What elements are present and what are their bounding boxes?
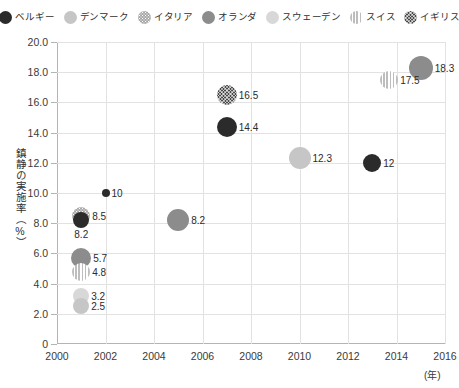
y-axis-tick-label: 4.0 bbox=[33, 278, 48, 290]
x-gridline bbox=[445, 42, 446, 344]
data-point-label: 18.3 bbox=[435, 62, 454, 73]
legend-item-denmark[interactable]: デンマーク bbox=[64, 11, 129, 24]
y-axis-tick bbox=[51, 314, 57, 315]
x-gridline bbox=[203, 42, 204, 344]
x-axis-tick-label: 2016 bbox=[433, 350, 456, 362]
x-axis-tick-label: 2014 bbox=[385, 350, 408, 362]
data-point-denmark[interactable] bbox=[73, 298, 89, 314]
y-axis-tick bbox=[51, 253, 57, 254]
y-axis-tick-label: 12.0 bbox=[28, 157, 48, 169]
y-axis-tick-label: 2.0 bbox=[33, 308, 48, 320]
legend-label-belgium: ベルギー bbox=[15, 12, 54, 22]
data-point-switzerland[interactable] bbox=[380, 71, 398, 89]
legend-label-sweden: スウェーデン bbox=[282, 12, 341, 22]
y-axis-tick-label: 18.0 bbox=[28, 66, 48, 78]
legend-item-sweden[interactable]: スウェーデン bbox=[266, 11, 341, 24]
x-axis-tick-label: 2002 bbox=[94, 350, 117, 362]
x-gridline bbox=[348, 42, 349, 344]
x-axis-tick-label: 2010 bbox=[288, 350, 311, 362]
data-point-label: 5.7 bbox=[93, 252, 107, 263]
legend-item-switzerland[interactable]: スイス bbox=[350, 11, 395, 24]
legend-item-uk[interactable]: イギリス bbox=[404, 11, 459, 24]
data-point-label: 2.5 bbox=[91, 301, 105, 312]
plot-area: 02.04.06.08.010.012.014.016.018.020.0200… bbox=[57, 42, 445, 344]
legend-swatch-switzerland-icon bbox=[350, 11, 363, 24]
y-axis-tick bbox=[51, 344, 57, 345]
y-axis-tick-label: 10.0 bbox=[28, 187, 48, 199]
y-axis-tick bbox=[51, 223, 57, 224]
legend-swatch-belgium-icon bbox=[0, 11, 12, 24]
y-axis-tick bbox=[51, 163, 57, 164]
data-point-belgium[interactable] bbox=[217, 117, 237, 137]
legend-item-belgium[interactable]: ベルギー bbox=[0, 11, 55, 24]
x-gridline bbox=[154, 42, 155, 344]
data-point-label: 16.5 bbox=[239, 89, 258, 100]
legend-swatch-sweden-icon bbox=[266, 11, 279, 24]
data-point-label: 17.5 bbox=[400, 74, 419, 85]
y-axis-tick-label: 20.0 bbox=[28, 36, 48, 48]
y-axis-tick bbox=[51, 133, 57, 134]
legend-label-switzerland: スイス bbox=[366, 12, 395, 22]
y-axis-tick bbox=[51, 42, 57, 43]
data-point-label: 3.2 bbox=[91, 290, 105, 301]
x-gridline bbox=[300, 42, 301, 344]
x-axis-tick-label: 2006 bbox=[191, 350, 214, 362]
y-axis-tick bbox=[51, 72, 57, 73]
x-axis-tick-label: 2012 bbox=[336, 350, 359, 362]
data-point-netherlands[interactable] bbox=[167, 209, 189, 231]
data-point-label: 12 bbox=[383, 157, 394, 168]
data-point-denmark[interactable] bbox=[289, 147, 311, 169]
data-point-label: 4.8 bbox=[92, 266, 106, 277]
y-axis-tick bbox=[51, 284, 57, 285]
x-gridline bbox=[251, 42, 252, 344]
data-point-label: 8.5 bbox=[92, 210, 106, 221]
legend-swatch-italy-icon bbox=[138, 11, 151, 24]
y-axis-title: 鎮静の実施率（%） bbox=[7, 148, 25, 248]
legend-swatch-uk-icon bbox=[404, 11, 417, 24]
y-axis-tick-label: 0 bbox=[42, 338, 48, 350]
data-point-belgium[interactable] bbox=[102, 189, 110, 197]
x-axis-title: (年) bbox=[424, 367, 441, 382]
chart-legend: ベルギーデンマークイタリアオランダスウェーデンスイスイギリス bbox=[0, 0, 459, 34]
legend-label-denmark: デンマーク bbox=[80, 12, 129, 22]
data-point-belgium[interactable] bbox=[363, 154, 381, 172]
y-axis-tick-label: 16.0 bbox=[28, 96, 48, 108]
legend-swatch-netherlands-icon bbox=[202, 11, 215, 24]
y-axis-tick bbox=[51, 102, 57, 103]
x-axis-tick-label: 2008 bbox=[239, 350, 262, 362]
y-axis-tick bbox=[51, 193, 57, 194]
y-axis-tick-label: 6.0 bbox=[33, 247, 48, 259]
data-point-switzerland[interactable] bbox=[72, 263, 90, 281]
legend-label-netherlands: オランダ bbox=[218, 12, 257, 22]
legend-label-uk: イギリス bbox=[420, 12, 459, 22]
x-axis-tick-label: 2000 bbox=[45, 350, 68, 362]
x-axis-tick-label: 2004 bbox=[142, 350, 165, 362]
data-point-label: 10 bbox=[112, 188, 123, 199]
legend-swatch-denmark-icon bbox=[64, 11, 77, 24]
legend-item-netherlands[interactable]: オランダ bbox=[202, 11, 257, 24]
x-gridline bbox=[397, 42, 398, 344]
data-point-belgium[interactable] bbox=[73, 212, 89, 228]
data-point-uk[interactable] bbox=[217, 85, 237, 105]
data-point-label: 8.2 bbox=[74, 229, 88, 240]
y-axis-tick-label: 8.0 bbox=[33, 217, 48, 229]
chart-container: ベルギーデンマークイタリアオランダスウェーデンスイスイギリス 鎮静の実施率（%）… bbox=[0, 0, 459, 388]
data-point-label: 8.2 bbox=[191, 215, 205, 226]
y-axis-tick-label: 14.0 bbox=[28, 127, 48, 139]
data-point-label: 12.3 bbox=[313, 153, 332, 164]
legend-label-italy: イタリア bbox=[154, 12, 193, 22]
data-point-label: 14.4 bbox=[239, 121, 258, 132]
legend-item-italy[interactable]: イタリア bbox=[138, 11, 193, 24]
